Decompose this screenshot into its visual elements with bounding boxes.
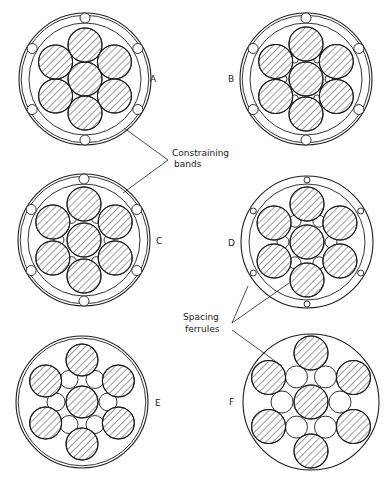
hatched-rod	[290, 225, 324, 259]
hatched-rod	[323, 206, 357, 240]
hatched-rod	[68, 62, 102, 96]
hatched-rod	[36, 241, 70, 275]
figure-stage: ABCDEF Constraining bands Spacing ferrul…	[0, 0, 387, 484]
panel-label-f: F	[229, 397, 234, 407]
panel-label-d: D	[228, 238, 235, 248]
hatched-rod	[102, 407, 134, 439]
constraining-bands-callout: Constraining bands	[123, 128, 229, 193]
hatched-rod	[68, 96, 102, 130]
outer-ferrule	[27, 105, 37, 115]
outer-ferrule	[250, 270, 256, 276]
outer-ferrule	[133, 105, 143, 115]
panel-f: F	[229, 334, 379, 470]
panel-b: B	[228, 13, 372, 145]
outer-ferrule	[358, 208, 364, 214]
hatched-rod	[98, 241, 132, 275]
constraining-bands-label-line1: Constraining	[172, 148, 229, 158]
hatched-rod	[252, 361, 286, 395]
outer-ferrule	[354, 44, 364, 54]
hatched-rod	[290, 263, 324, 297]
outer-ferrule	[250, 208, 256, 214]
outer-ferrule	[80, 13, 90, 23]
leader-line	[123, 160, 168, 193]
outer-ferrule	[26, 266, 36, 276]
hatched-rod	[39, 45, 73, 79]
hatched-rod	[294, 336, 328, 370]
hatched-rod	[67, 223, 101, 257]
hatched-rod	[67, 259, 101, 293]
outer-ferrule	[304, 301, 310, 307]
hatched-rod	[294, 385, 328, 419]
outer-ferrule	[80, 135, 90, 145]
hatched-rod	[319, 80, 353, 114]
hatched-rod	[30, 407, 62, 439]
panel-label-b: B	[228, 74, 234, 84]
panel-c: C	[18, 174, 162, 306]
outer-ferrule	[304, 177, 310, 183]
spacing-ferrule	[271, 391, 293, 413]
panel-e: E	[16, 336, 161, 468]
hatched-rod	[336, 361, 370, 395]
spacing-ferrule	[315, 366, 337, 388]
hatched-rod	[336, 410, 370, 444]
panel-a: A	[19, 13, 157, 145]
spacing-ferrules-label-line1: Spacing	[183, 312, 219, 322]
hatched-rod	[252, 410, 286, 444]
outer-ferrule	[79, 296, 89, 306]
hatched-rod	[66, 428, 98, 460]
hatched-rod	[294, 434, 328, 468]
constraining-bands-leaders	[123, 128, 168, 193]
hatched-rod	[259, 45, 293, 79]
spacing-ferrule	[286, 366, 308, 388]
hatched-rod	[30, 365, 62, 397]
outer-ferrule	[301, 135, 311, 145]
hatched-rod	[39, 79, 73, 113]
panel-label-e: E	[155, 398, 161, 408]
hatched-rod	[289, 62, 323, 96]
outer-ferrule	[132, 266, 142, 276]
hatched-rod	[257, 244, 291, 278]
rod-bundle-diagram: ABCDEF Constraining bands Spacing ferrul…	[0, 0, 387, 484]
constraining-bands-label-line2: bands	[174, 159, 202, 169]
hatched-rod	[67, 187, 101, 221]
spacing-ferrule	[286, 416, 308, 438]
hatched-rod	[36, 205, 70, 239]
outer-ferrule	[301, 13, 311, 23]
hatched-rod	[97, 79, 131, 113]
outer-ferrule	[248, 105, 258, 115]
hatched-rod	[98, 205, 132, 239]
spacing-ferrule	[315, 416, 337, 438]
outer-ferrule	[133, 44, 143, 54]
outer-ferrule	[354, 105, 364, 115]
hatched-rod	[289, 97, 323, 131]
spacing-ferrules-label-line2: ferrules	[185, 324, 220, 334]
hatched-rod	[319, 45, 353, 79]
hatched-rod	[323, 244, 357, 278]
hatched-rod	[289, 27, 323, 61]
outer-ferrule	[26, 205, 36, 215]
spacing-ferrule	[329, 391, 351, 413]
hatched-rod	[68, 28, 102, 62]
hatched-rod	[66, 386, 98, 418]
panel-label-a: A	[150, 74, 157, 84]
outer-ferrule	[27, 44, 37, 54]
outer-ferrule	[248, 44, 258, 54]
outer-ferrule	[79, 174, 89, 184]
panels-group: ABCDEF	[16, 13, 379, 470]
hatched-rod	[257, 206, 291, 240]
hatched-rod	[102, 365, 134, 397]
hatched-rod	[97, 45, 131, 79]
outer-ferrule	[358, 270, 364, 276]
hatched-rod	[290, 187, 324, 221]
hatched-rod	[66, 344, 98, 376]
hatched-rod	[259, 80, 293, 114]
leader-line	[124, 128, 168, 160]
outer-ferrule	[132, 205, 142, 215]
panel-label-c: C	[156, 236, 162, 246]
panel-d: D	[228, 176, 373, 308]
